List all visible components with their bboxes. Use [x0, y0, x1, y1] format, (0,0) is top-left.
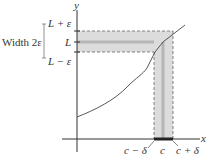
x-tick-right-label: c + δ: [176, 144, 200, 156]
y-tick-lower-label: L − ε: [47, 55, 72, 67]
y-tick-middle-label: L: [64, 36, 71, 48]
x-tick-middle-label: c: [160, 144, 165, 156]
epsilon-delta-diagram: y x L + ε L L − ε Width 2ε c − δ c c + δ: [0, 0, 212, 159]
y-axis-label: y: [73, 0, 79, 11]
width-bracket: [42, 24, 46, 58]
width-label: Width 2ε: [2, 36, 42, 48]
x-axis-label: x: [200, 132, 206, 144]
x-tick-left-label: c − δ: [124, 144, 148, 156]
y-tick-upper-label: L + ε: [47, 17, 72, 29]
